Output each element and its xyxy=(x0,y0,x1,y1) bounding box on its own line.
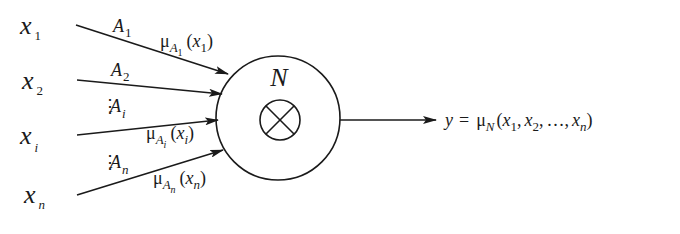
fuzzy-set-a2-label: A2 xyxy=(110,60,130,84)
product-operator-icon xyxy=(260,100,300,140)
fuzzy-neuron-diagram: x1 x2 xi xn A1 A2 ⋮ Ai ⋮ An μA1(x1) μAi(… xyxy=(0,0,680,234)
fuzzy-set-an-label: An xyxy=(109,152,129,177)
input-arrow-2 xyxy=(77,80,222,94)
membership-label-n: μAn(xn) xyxy=(153,168,206,195)
fuzzy-set-ai-label: Ai xyxy=(109,96,126,121)
fuzzy-set-a1-label: A1 xyxy=(112,16,132,40)
membership-label-i: μAi(xi) xyxy=(146,123,194,150)
input-x2-label: x2 xyxy=(21,66,43,98)
output-equation: y=μN(x1,x2,…,xn) xyxy=(443,110,592,134)
input-x1-label: x1 xyxy=(19,11,41,43)
input-xi-label: xi xyxy=(19,121,39,155)
input-xn-label: xn xyxy=(23,180,45,212)
neuron-label: N xyxy=(269,63,289,92)
